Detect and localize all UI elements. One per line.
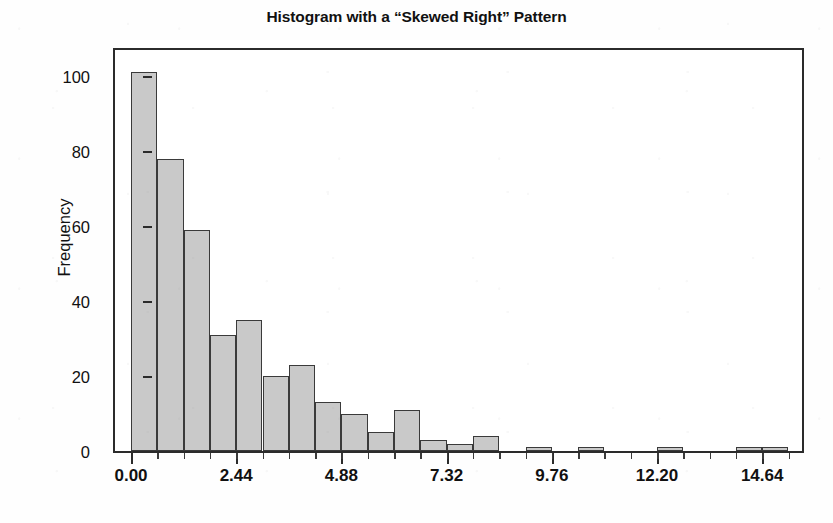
histogram-bar <box>420 440 446 451</box>
x-minor-tick <box>578 453 580 459</box>
histogram-bar <box>341 414 367 452</box>
x-tick-mark <box>131 453 133 464</box>
x-minor-tick <box>736 453 738 459</box>
x-minor-tick <box>683 453 685 459</box>
x-tick-label: 4.88 <box>301 466 381 486</box>
y-axis: Frequency 020406080100 <box>38 0 90 523</box>
x-minor-tick <box>394 453 396 459</box>
x-tick-label: 12.20 <box>617 466 697 486</box>
x-minor-tick <box>263 453 265 459</box>
histogram-bar <box>762 447 788 451</box>
x-minor-tick <box>368 453 370 459</box>
histogram-bar <box>157 159 183 452</box>
y-tick-mark <box>143 76 152 78</box>
y-tick-label: 80 <box>46 143 90 162</box>
histogram-bar <box>657 447 683 451</box>
y-tick-label: 40 <box>46 293 90 312</box>
x-minor-tick <box>762 453 764 459</box>
x-minor-tick <box>789 453 791 459</box>
x-minor-tick <box>315 453 317 459</box>
histogram-bar <box>184 230 210 451</box>
y-tick-mark <box>143 451 152 453</box>
x-minor-tick <box>157 453 159 459</box>
x-tick-label: 7.32 <box>407 466 487 486</box>
x-tick-label: 2.44 <box>196 466 276 486</box>
x-minor-tick <box>420 453 422 459</box>
x-minor-tick <box>710 453 712 459</box>
histogram-bar <box>736 447 762 451</box>
y-tick-mark <box>143 151 152 153</box>
x-tick-label: 14.64 <box>722 466 802 486</box>
x-minor-tick <box>236 453 238 459</box>
histogram-bar <box>236 320 262 451</box>
y-tick-mark <box>143 226 152 228</box>
x-minor-tick <box>447 453 449 459</box>
histogram-bar <box>473 436 499 451</box>
histogram-bar <box>368 432 394 451</box>
histogram-bar <box>315 402 341 451</box>
x-minor-tick <box>341 453 343 459</box>
histogram-bar <box>210 335 236 451</box>
histogram-bar <box>263 376 289 451</box>
y-tick-mark <box>143 301 152 303</box>
x-tick-label: 9.76 <box>512 466 592 486</box>
x-tick-label: 0.00 <box>91 466 171 486</box>
x-minor-tick <box>210 453 212 459</box>
x-minor-tick <box>631 453 633 459</box>
y-tick-label: 100 <box>46 68 90 87</box>
histogram-bar <box>289 365 315 451</box>
histogram-bar <box>578 447 604 451</box>
x-minor-tick <box>289 453 291 459</box>
y-tick-label: 60 <box>46 218 90 237</box>
y-tick-mark <box>143 376 152 378</box>
x-minor-tick <box>473 453 475 459</box>
x-minor-tick <box>499 453 501 459</box>
y-tick-label: 0 <box>46 443 90 462</box>
x-minor-tick <box>184 453 186 459</box>
x-minor-tick <box>526 453 528 459</box>
y-tick-label: 20 <box>46 368 90 387</box>
histogram-chart: Histogram with a “Skewed Right” Pattern … <box>0 0 833 523</box>
chart-title: Histogram with a “Skewed Right” Pattern <box>0 8 833 26</box>
x-minor-tick <box>552 453 554 459</box>
x-minor-tick <box>657 453 659 459</box>
bars-layer <box>113 48 804 453</box>
histogram-bar <box>394 410 420 451</box>
x-minor-tick <box>604 453 606 459</box>
y-axis-title: Frequency <box>55 178 74 298</box>
histogram-bar <box>447 444 473 452</box>
histogram-bar <box>131 72 157 451</box>
histogram-bar <box>526 447 552 451</box>
